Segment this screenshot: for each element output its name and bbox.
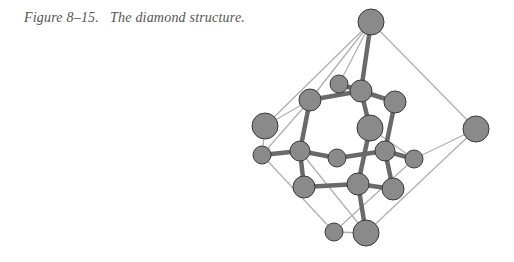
atom-inner (347, 173, 369, 195)
atom-corner-bottom (353, 220, 379, 246)
atom-face (299, 89, 321, 111)
atom-corner-top (358, 9, 384, 35)
atom-face (382, 178, 404, 200)
atom-face (293, 176, 315, 198)
atom-small-bottom (325, 223, 343, 241)
cell-edge (265, 22, 371, 126)
atom-small-left (253, 146, 271, 164)
atom-inner (290, 141, 310, 161)
atom-face (384, 91, 406, 113)
atom-small-right (405, 150, 423, 168)
atom-inner (350, 80, 372, 102)
atoms (252, 9, 489, 246)
atom-small-back (328, 149, 346, 167)
atom-corner-left (252, 113, 278, 139)
atom-face-center (357, 115, 383, 141)
atom-corner-right (463, 116, 489, 142)
atom-small-back (330, 75, 348, 93)
diamond-structure-diagram (0, 0, 514, 262)
atom-inner (375, 141, 395, 161)
cell-edge (371, 22, 476, 129)
